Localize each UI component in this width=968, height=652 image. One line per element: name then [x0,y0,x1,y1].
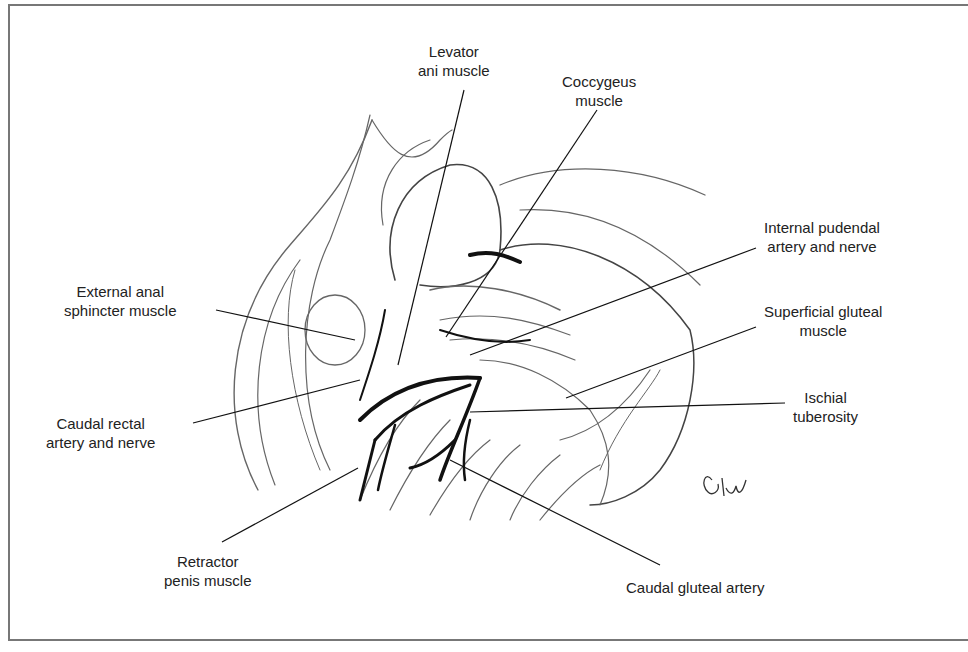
label-caudal-gluteal-artery: Caudal gluteal artery [626,578,764,597]
artist-signature [704,477,746,496]
label-internal-pudendal-artery-and-nerve: Internal pudendal artery and nerve [764,218,880,256]
label-levator-ani-muscle: Levator ani muscle [418,42,490,80]
leader-lines [193,90,785,565]
label-coccygeus-muscle: Coccygeus muscle [562,72,636,110]
label-ischial-tuberosity: Ischial tuberosity [793,388,858,426]
label-retractor-penis-muscle: Retractor penis muscle [164,552,252,590]
label-external-anal-sphincter-muscle: External anal sphincter muscle [64,282,177,320]
label-caudal-rectal-artery-and-nerve: Caudal rectal artery and nerve [46,414,155,452]
label-superficial-gluteal-muscle: Superficial gluteal muscle [764,302,882,340]
